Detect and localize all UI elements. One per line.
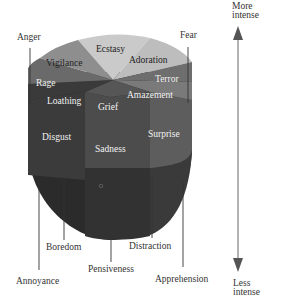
arrow-down-icon bbox=[233, 258, 243, 272]
label-more-intense-line2: intense bbox=[232, 10, 259, 20]
label-pensiveness: Pensiveness bbox=[88, 264, 134, 274]
label-vigilance: Vigilance bbox=[46, 58, 82, 68]
label-grief: Grief bbox=[98, 102, 119, 112]
label-ecstasy: Ecstasy bbox=[96, 44, 125, 54]
label-sadness: Sadness bbox=[95, 144, 126, 154]
label-fear: Fear bbox=[180, 30, 198, 40]
label-apprehension: Apprehension bbox=[155, 274, 209, 284]
label-amazement: Amazement bbox=[127, 90, 173, 100]
label-surprise: Surprise bbox=[148, 129, 180, 139]
label-anger: Anger bbox=[17, 32, 42, 42]
plutchik-emotion-cone-diagram: Ecstasy Adoration Vigilance Terror Rage … bbox=[0, 0, 285, 297]
label-annoyance: Annoyance bbox=[16, 276, 59, 286]
label-less-intense-line2: intense bbox=[233, 287, 260, 297]
label-loathing: Loathing bbox=[47, 96, 82, 106]
label-terror: Terror bbox=[155, 74, 179, 84]
label-boredom: Boredom bbox=[46, 242, 82, 252]
label-disgust: Disgust bbox=[42, 132, 71, 142]
label-distraction: Distraction bbox=[129, 241, 171, 251]
label-rage: Rage bbox=[36, 78, 56, 88]
label-adoration: Adoration bbox=[129, 55, 168, 65]
arrow-up-icon bbox=[233, 26, 243, 40]
